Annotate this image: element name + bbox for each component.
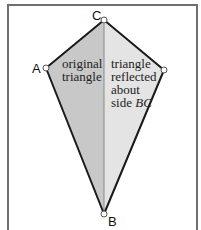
label-b: B: [108, 214, 117, 229]
kite-diagram: A C B original triangle triangle reflect…: [0, 0, 201, 230]
left-text-line-2: triangle: [62, 69, 102, 84]
label-c: C: [92, 8, 101, 23]
point-b-marker: [101, 211, 107, 217]
right-text-bc: BC: [135, 95, 152, 110]
reflected-triangle: [104, 20, 164, 214]
label-a: A: [32, 61, 41, 76]
point-a-marker: [43, 65, 49, 71]
point-d-marker: [161, 67, 167, 73]
right-text-side: side: [111, 95, 135, 110]
right-text-line-4: side BC: [111, 95, 152, 110]
original-triangle: [46, 20, 104, 214]
point-c-marker: [101, 17, 107, 23]
